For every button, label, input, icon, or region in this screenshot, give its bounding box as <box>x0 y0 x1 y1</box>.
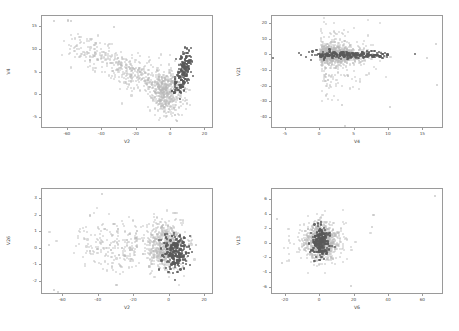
data-point <box>318 230 320 232</box>
data-point <box>318 246 320 248</box>
data-point <box>317 247 319 249</box>
data-point <box>322 241 324 243</box>
data-point <box>319 241 321 243</box>
data-point <box>318 233 320 235</box>
data-point <box>311 249 313 251</box>
x-tickmark <box>388 294 389 296</box>
data-point <box>324 233 326 235</box>
data-point <box>319 248 321 250</box>
data-point <box>324 239 326 241</box>
data-point <box>320 246 322 248</box>
data-point <box>318 246 320 248</box>
data-point <box>327 240 329 242</box>
data-point <box>319 242 321 244</box>
data-point <box>322 239 324 241</box>
data-point <box>315 235 317 237</box>
data-point <box>318 235 320 237</box>
y-tick-label: -6 <box>245 284 267 289</box>
data-point <box>329 234 331 236</box>
data-point <box>320 233 322 235</box>
data-point <box>319 242 321 244</box>
data-point <box>309 251 311 253</box>
data-point <box>320 241 322 243</box>
data-point <box>321 253 323 255</box>
data-point <box>321 239 323 241</box>
data-point <box>324 249 326 251</box>
data-point <box>315 243 317 245</box>
data-point <box>320 240 322 242</box>
data-point <box>325 250 327 252</box>
data-point <box>328 248 330 250</box>
data-point <box>322 232 324 234</box>
data-point <box>322 245 324 247</box>
data-point <box>321 239 323 241</box>
data-point <box>314 235 316 237</box>
x-tickmark <box>319 294 320 296</box>
data-point <box>314 244 316 246</box>
data-point <box>313 223 315 225</box>
data-point <box>316 251 318 253</box>
y-tickmark <box>269 214 271 215</box>
data-point <box>324 249 326 251</box>
data-point <box>313 251 315 253</box>
data-point <box>326 240 328 242</box>
data-point <box>318 230 320 232</box>
data-point <box>322 247 324 249</box>
data-point <box>319 239 321 241</box>
data-point <box>317 243 319 245</box>
data-point <box>323 236 325 238</box>
data-point <box>323 258 325 260</box>
data-point <box>312 250 314 252</box>
data-point <box>316 245 318 247</box>
data-point <box>321 237 323 239</box>
data-point <box>325 240 327 242</box>
scatter-panel-bottom-right: -6-4-20246-200204060V6V13 <box>0 0 459 331</box>
data-point <box>323 242 325 244</box>
data-point <box>323 238 325 240</box>
data-point <box>320 237 322 239</box>
data-point <box>321 250 323 252</box>
y-tickmark <box>269 199 271 200</box>
data-point <box>321 252 323 254</box>
data-point <box>315 256 317 258</box>
data-point <box>325 253 327 255</box>
data-point <box>318 259 320 261</box>
data-point <box>312 241 314 243</box>
data-point <box>313 260 315 262</box>
data-point <box>322 239 324 241</box>
x-tickmark <box>285 294 286 296</box>
data-point <box>320 234 322 236</box>
data-point <box>318 243 320 245</box>
data-point <box>321 231 323 233</box>
data-point <box>318 241 320 243</box>
x-tick-label: 60 <box>411 297 433 302</box>
data-point <box>334 246 336 248</box>
data-point <box>317 240 319 242</box>
data-point <box>320 239 322 241</box>
data-point <box>317 247 319 249</box>
y-tickmark <box>269 228 271 229</box>
data-point <box>314 243 316 245</box>
data-point <box>320 244 322 246</box>
data-point <box>312 239 314 241</box>
x-tick-label: 40 <box>377 297 399 302</box>
data-point <box>317 225 319 227</box>
data-point <box>316 234 318 236</box>
data-point <box>320 234 322 236</box>
data-point <box>318 249 320 251</box>
data-point <box>318 250 320 252</box>
data-point <box>319 238 321 240</box>
data-point <box>319 259 321 261</box>
data-point <box>325 243 327 245</box>
data-point <box>323 240 325 242</box>
data-point <box>320 237 322 239</box>
data-point <box>313 241 315 243</box>
data-point <box>319 247 321 249</box>
data-point <box>319 239 321 241</box>
data-point <box>321 250 323 252</box>
data-point <box>317 234 319 236</box>
y-tickmark <box>269 257 271 258</box>
data-point <box>323 246 325 248</box>
data-point <box>321 247 323 249</box>
data-point <box>324 235 326 237</box>
